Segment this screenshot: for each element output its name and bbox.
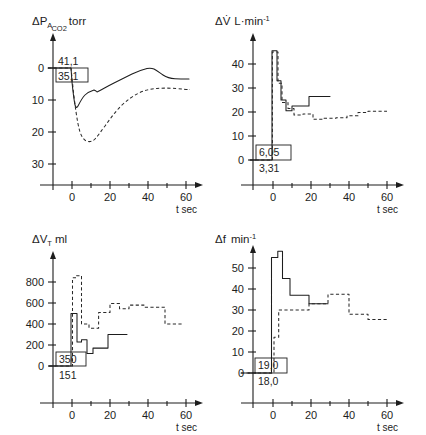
y-ticklabel-30: 30 <box>32 158 44 170</box>
y-ticklabel-800: 800 <box>26 276 44 288</box>
x-ticklabel-60: 60 <box>381 191 393 203</box>
panel-title: ΔVTml <box>32 233 67 248</box>
x-ticklabel-20: 20 <box>104 191 116 203</box>
panel-title: ΔPACO2torr <box>32 15 86 33</box>
x-ticklabel-0: 0 <box>69 191 75 203</box>
chart-svg-ventilation: ΔV̇L·min-1 0 10 20 30 40 0 20 <box>213 0 426 217</box>
x-ticklabel-0: 0 <box>270 191 276 203</box>
x-ticklabel-60: 60 <box>180 191 192 203</box>
chart-svg-frequency: Δfmin-1 0 10 20 30 40 50 <box>213 218 426 435</box>
x-axis-arrow <box>195 400 203 406</box>
y-ticklabel-20: 20 <box>232 325 244 337</box>
x-ticklabel-0: 0 <box>270 409 276 421</box>
series-solid <box>250 51 330 160</box>
x-axis-arrow <box>396 182 404 188</box>
x-ticklabel-20: 20 <box>305 409 317 421</box>
figure-container: ΔPACO2torr 0 10 20 30 0 <box>0 0 426 435</box>
y-ticklabel-50: 50 <box>232 262 244 274</box>
y-ticklabel-10: 10 <box>232 130 244 142</box>
x-axis-arrow <box>396 400 404 406</box>
x-ticklabel-40: 40 <box>142 409 154 421</box>
baseline-label-solid: 35,1 <box>58 70 79 82</box>
y-ticklabel-40: 40 <box>232 58 244 70</box>
x-ticklabel-60: 60 <box>381 409 393 421</box>
x-ticklabel-20: 20 <box>305 191 317 203</box>
baseline-label-solid: 350 <box>59 353 77 365</box>
y-ticklabel-30: 30 <box>232 304 244 316</box>
panel-title: ΔV̇L·min-1 <box>215 14 270 27</box>
chart-panel-frequency: Δfmin-1 0 10 20 30 40 50 <box>213 218 426 435</box>
chart-panel-pa-co2: ΔPACO2torr 0 10 20 30 0 <box>0 0 213 217</box>
x-ticklabel-40: 40 <box>343 409 355 421</box>
y-ticklabel-20: 20 <box>232 106 244 118</box>
y-ticklabel-10: 10 <box>232 346 244 358</box>
x-axis-label: t sec <box>377 204 398 215</box>
x-ticklabel-40: 40 <box>142 191 154 203</box>
baseline-label-dashed: 18,0 <box>258 375 279 387</box>
y-axis-arrow <box>50 251 56 259</box>
x-axis-label: t sec <box>377 422 398 433</box>
chart-panel-tidal-volume: ΔVTml 0 200 400 600 800 0 20 <box>0 218 213 435</box>
y-ticklabel-600: 600 <box>26 297 44 309</box>
y-ticklabel-40: 40 <box>232 283 244 295</box>
chart-panel-ventilation: ΔV̇L·min-1 0 10 20 30 40 0 20 <box>213 0 426 217</box>
y-ticklabel-30: 30 <box>232 82 244 94</box>
y-ticklabel-400: 400 <box>26 318 44 330</box>
baseline-label-solid: 19,0 <box>258 359 279 371</box>
series-solid <box>241 251 328 373</box>
x-ticklabel-20: 20 <box>104 409 116 421</box>
chart-svg-pa-co2: ΔPACO2torr 0 10 20 30 0 <box>0 0 213 217</box>
x-ticklabel-40: 40 <box>343 191 355 203</box>
y-axis-arrow <box>50 33 56 41</box>
panel-title: Δfmin-1 <box>215 232 256 245</box>
y-axis-arrow <box>250 33 256 41</box>
y-ticklabel-0: 0 <box>238 154 244 166</box>
y-axis-arrow <box>250 245 256 253</box>
y-ticklabel-20: 20 <box>32 126 44 138</box>
y-ticklabel-0: 0 <box>38 360 44 372</box>
chart-svg-tidal-volume: ΔVTml 0 200 400 600 800 0 20 <box>0 218 213 435</box>
baseline-label-dashed: 3,31 <box>259 162 280 174</box>
x-ticklabel-0: 0 <box>69 409 75 421</box>
baseline-label-dashed: 41,1 <box>58 55 79 67</box>
series-dashed <box>250 52 387 160</box>
y-ticklabel-10: 10 <box>32 94 44 106</box>
x-axis-arrow <box>195 182 203 188</box>
x-axis-label: t sec <box>176 422 197 433</box>
y-ticklabel-0: 0 <box>38 62 44 74</box>
y-ticklabel-200: 200 <box>26 339 44 351</box>
x-axis-label: t sec <box>176 204 197 215</box>
x-ticklabel-60: 60 <box>180 409 192 421</box>
baseline-label-solid: 6,05 <box>259 146 280 158</box>
baseline-label-dashed: 151 <box>59 369 77 381</box>
